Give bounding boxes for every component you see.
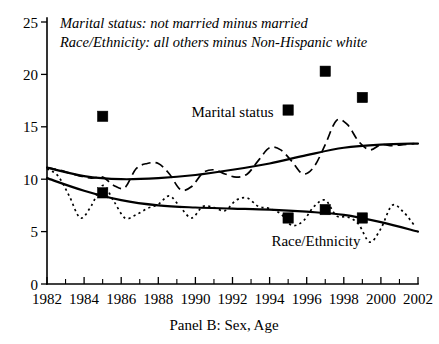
data-marker-race-ethnicity-1997 [320,204,330,214]
chart-note-line-1: Marital status: not married minus marrie… [59,15,308,31]
data-marker-race-ethnicity-1985 [97,188,107,198]
x-tick-label-1990: 1990 [180,291,210,307]
x-tick-label-1988: 1988 [143,291,173,307]
x-tick-label-2002: 2002 [403,291,433,307]
y-tick-label-5: 5 [31,224,39,240]
y-tick-label-15: 15 [23,119,38,135]
y-tick-label-10: 10 [23,172,38,188]
x-tick-label-1992: 1992 [218,291,248,307]
x-tick-label-1996: 1996 [292,291,323,307]
data-marker-marital-status-1995 [283,105,293,115]
data-marker-marital-status-1999 [357,92,367,102]
y-tick-label-25: 25 [23,15,38,31]
x-tick-label-1982: 1982 [32,291,62,307]
y-tick-label-20: 20 [23,67,38,83]
panel-caption: Panel B: Sex, Age [169,317,279,333]
data-marker-marital-status-1997 [320,66,330,76]
x-tick-label-1984: 1984 [69,291,100,307]
x-tick-label-1998: 1998 [329,291,359,307]
x-tick-label-1986: 1986 [106,291,137,307]
series-label-marital-status: Marital status [191,104,273,120]
chart-panel-b: Marital status: not married minus marrie… [0,0,439,344]
panel-caption-text: Panel B: Sex, Age [169,317,279,333]
data-marker-race-ethnicity-1999 [357,213,367,223]
data-marker-race-ethnicity-1995 [283,213,293,223]
data-marker-marital-status-1985 [97,111,107,121]
chart-note-line-2: Race/Ethnicity: all others minus Non-His… [59,34,368,50]
x-tick-label-2000: 2000 [366,291,396,307]
chart-svg: Marital status: not married minus marrie… [0,0,439,344]
series-label-race-ethnicity: Race/Ethnicity [271,233,361,249]
x-tick-label-1994: 1994 [255,291,286,307]
